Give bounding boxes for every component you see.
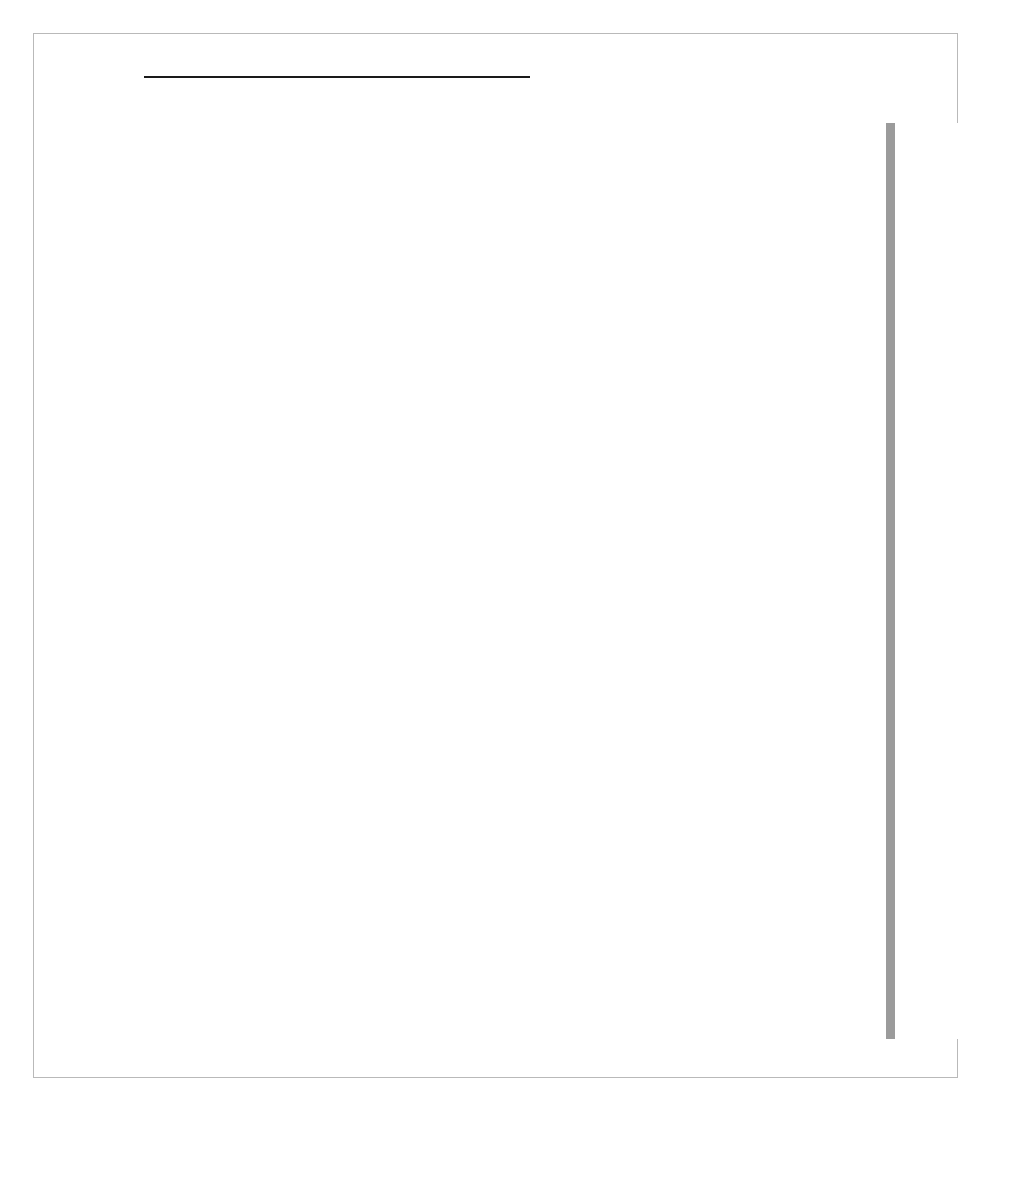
x-axis-tick-labels — [520, 82, 940, 110]
chart-rows-container — [135, 123, 959, 1039]
chart-header — [34, 34, 959, 124]
header-divider-rule — [144, 76, 530, 78]
figure-frame — [33, 33, 958, 1078]
plot-right-shadow-edge — [886, 123, 895, 1039]
